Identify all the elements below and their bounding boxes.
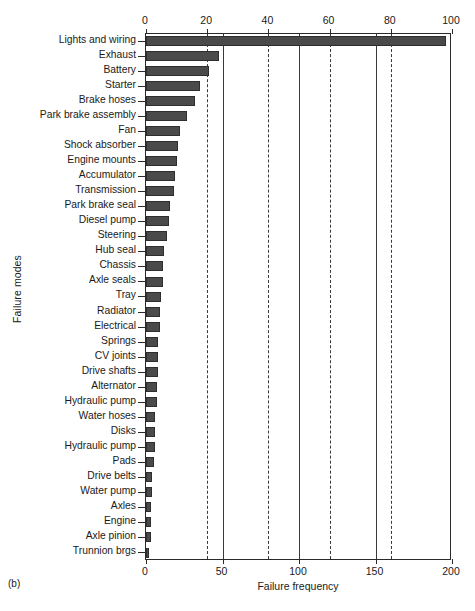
category-row: Water hoses [0,409,145,423]
bar [146,292,161,302]
tick-label-top: 20 [186,14,226,26]
category-label: Park brake seal [0,200,136,210]
category-label: Radiator [0,306,136,316]
bar [146,427,155,437]
bar-row [146,441,452,455]
bar [146,472,152,482]
category-label: CV joints [0,351,136,361]
bar-row [146,230,452,244]
tick-bottom [376,559,377,564]
tick-top [268,29,269,34]
bar-row [146,200,452,214]
category-row: Brake hoses [0,93,145,107]
category-row: Battery [0,63,145,77]
category-label: Water pump [0,486,136,496]
bar-row [146,320,452,334]
tick-top [207,29,208,34]
bar [146,171,175,181]
category-label: Shock absorber [0,140,136,150]
tick-label-top: 0 [125,14,165,26]
category-label: Drive belts [0,471,136,481]
category-label: Diesel pump [0,215,136,225]
bar-row [146,260,452,274]
category-tick [138,146,145,147]
category-row: Axle seals [0,274,145,288]
category-row: Fan [0,123,145,137]
category-tick [138,251,145,252]
category-label: Starter [0,80,136,90]
tick-label-top: 80 [370,14,410,26]
bar [146,382,157,392]
category-tick [138,417,145,418]
category-label: Steering [0,230,136,240]
category-row: Electrical [0,319,145,333]
tick-top [146,29,147,34]
category-row: Drive shafts [0,364,145,378]
tick-top [330,29,331,34]
category-label: Water hoses [0,411,136,421]
bar [146,141,178,151]
category-label: Electrical [0,321,136,331]
category-tick [138,266,145,267]
bar [146,517,151,527]
category-tick [138,206,145,207]
category-tick [138,161,145,162]
bar-row [146,425,452,439]
category-tick [138,492,145,493]
bar-row [146,275,452,289]
category-tick [138,296,145,297]
category-label: Axles [0,501,136,511]
tick-label-top: 60 [309,14,349,26]
bar [146,261,163,271]
category-label: Axle seals [0,275,136,285]
bar [146,81,200,91]
category-tick [138,327,145,328]
category-row: Engine [0,515,145,529]
category-row: Diesel pump [0,214,145,228]
category-row: Accumulator [0,169,145,183]
bar [146,186,174,196]
bar [146,457,154,467]
bar [146,36,446,46]
category-row: Steering [0,229,145,243]
bar-row [146,365,452,379]
tick-label-top: 40 [247,14,287,26]
category-tick [138,522,145,523]
tick-label-bottom: 200 [431,565,471,577]
category-row: Tray [0,289,145,303]
category-tick [138,86,145,87]
category-tick [138,372,145,373]
category-label: Springs [0,336,136,346]
bar-row [146,94,452,108]
category-label: Brake hoses [0,95,136,105]
category-tick [138,462,145,463]
category-label: Fan [0,125,136,135]
tick-bottom [223,559,224,564]
category-row: Water pump [0,485,145,499]
bar-row [146,34,452,48]
category-label: Hydraulic pump [0,396,136,406]
bar [146,216,169,226]
category-row: Springs [0,334,145,348]
category-label: Pads [0,456,136,466]
category-row: Engine mounts [0,153,145,167]
category-row: Trunnion brgs [0,545,145,559]
bar [146,442,155,452]
bar [146,201,170,211]
bar-row [146,531,452,545]
category-row: Hydraulic pump [0,440,145,454]
tick-label-top: 100 [431,14,471,26]
category-label: Battery [0,65,136,75]
bar-row [146,516,452,530]
tick-label-bottom: 100 [278,565,318,577]
category-row: Axle pinion [0,530,145,544]
category-tick [138,357,145,358]
category-label: Drive shafts [0,366,136,376]
category-row: Exhaust [0,48,145,62]
bar-row [146,546,452,560]
bar [146,156,177,166]
bar-row [146,350,452,364]
bar-row [146,64,452,78]
tick-bottom [146,559,147,564]
bar-row [146,154,452,168]
